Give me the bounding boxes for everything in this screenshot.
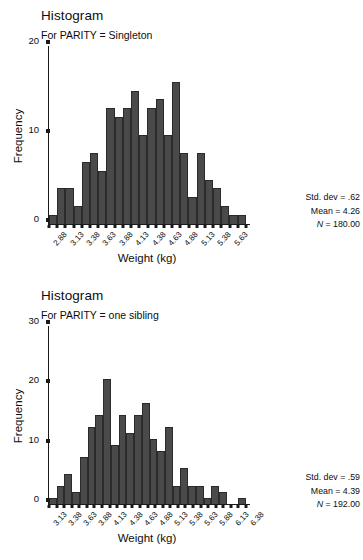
bar <box>238 498 246 504</box>
bar <box>90 153 98 224</box>
bar <box>134 415 142 504</box>
x-tick-label: 3.63 <box>82 510 99 528</box>
x-tick <box>245 225 248 228</box>
panel-1-plot-area: 2.883.133.383.633.884.134.384.634.885.13… <box>48 46 246 225</box>
bar <box>74 206 82 224</box>
bar <box>150 439 158 504</box>
x-tick-label: 3.38 <box>67 510 84 528</box>
panel-2-mean: Mean = 4.39 <box>305 485 360 499</box>
x-tick-label: 3.38 <box>85 230 102 248</box>
y-tick-label-10: 10 <box>28 124 39 135</box>
bar <box>126 433 134 504</box>
y-tick-20: 20 <box>46 379 50 383</box>
x-tick-label: 6.13 <box>233 510 250 528</box>
x-tick <box>85 505 88 508</box>
panel-2-y-axis-label-text: Frequency <box>12 388 24 442</box>
x-tick <box>179 225 182 228</box>
x-tick <box>146 505 149 508</box>
bar <box>57 188 65 224</box>
x-tick <box>222 505 225 508</box>
x-tick-label: 3.88 <box>117 230 134 248</box>
bar <box>205 180 213 225</box>
x-tick <box>169 505 172 508</box>
x-tick <box>70 505 73 508</box>
x-tick-label: 5.88 <box>218 510 235 528</box>
histogram-figure: Histogram For PARITY = Singleton Frequen… <box>0 0 363 560</box>
x-tick <box>228 225 231 228</box>
bar <box>188 197 196 224</box>
x-tick-label: 2.88 <box>52 230 69 248</box>
panel-1-stats-block: Std. dev = .62 Mean = 4.26 N = 180.00 <box>305 191 360 232</box>
panel-2-title: Histogram <box>41 288 103 303</box>
bar <box>173 486 181 504</box>
x-tick-label: 4.88 <box>183 230 200 248</box>
histogram-panel-one-sibling: Histogram For PARITY = one sibling Frequ… <box>0 280 363 560</box>
bar <box>213 188 221 224</box>
bar <box>221 206 229 224</box>
x-tick-label: 4.38 <box>150 230 167 248</box>
x-tick-label: 4.13 <box>112 510 129 528</box>
x-tick-label: 4.88 <box>157 510 174 528</box>
x-tick <box>236 225 239 228</box>
x-tick <box>93 505 96 508</box>
x-tick-label: 3.88 <box>97 510 114 528</box>
bar <box>119 415 127 504</box>
bar <box>180 468 188 504</box>
panel-2-x-axis-title: Weight (kg) <box>48 532 246 544</box>
panel-2-y-axis-label: Frequency <box>11 326 25 505</box>
panel-1-bar-series <box>49 46 246 224</box>
bar <box>80 457 88 504</box>
x-tick <box>80 225 83 228</box>
x-tick <box>154 225 157 228</box>
x-tick-label: 3.13 <box>51 510 68 528</box>
panel-1-n: N = 180.00 <box>305 218 360 232</box>
x-tick-label: 6.38 <box>248 510 265 528</box>
x-tick-label: 5.38 <box>216 230 233 248</box>
x-tick <box>72 225 75 228</box>
x-tick <box>89 225 92 228</box>
x-tick <box>220 225 223 228</box>
panel-2-subtitle: For PARITY = one sibling <box>41 309 159 321</box>
x-tick <box>78 505 81 508</box>
bar <box>64 474 72 504</box>
bar <box>219 492 227 504</box>
x-tick <box>207 505 210 508</box>
x-tick <box>108 505 111 508</box>
bar <box>131 91 139 225</box>
bar <box>123 108 131 224</box>
x-tick <box>176 505 179 508</box>
y-tick-30: 30 <box>46 320 50 324</box>
x-tick <box>214 505 217 508</box>
bar <box>65 188 73 224</box>
bar <box>95 415 103 504</box>
y-tick-label-10: 10 <box>28 433 39 444</box>
panel-2-n-value: = 192.00 <box>323 499 360 509</box>
bar <box>180 153 188 224</box>
y-tick-label-30: 30 <box>28 315 39 326</box>
panel-2-n: N = 192.00 <box>305 498 360 512</box>
x-tick <box>245 505 248 508</box>
x-tick <box>131 505 134 508</box>
x-tick-label: 4.13 <box>134 230 151 248</box>
bar <box>165 427 173 504</box>
x-tick <box>161 505 164 508</box>
panel-1-x-axis-title: Weight (kg) <box>48 252 246 264</box>
bar <box>72 492 80 504</box>
bar <box>196 486 204 504</box>
panel-1-y-axis-label-text: Frequency <box>12 108 24 162</box>
panel-1-subtitle: For PARITY = Singleton <box>41 29 152 41</box>
panel-1-x-tick-marks <box>49 225 246 229</box>
bar <box>49 498 57 504</box>
y-tick-label-20: 20 <box>28 35 39 46</box>
bar <box>82 162 90 224</box>
x-tick <box>121 225 124 228</box>
x-tick <box>56 225 59 228</box>
panel-1-std-dev: Std. dev = .62 <box>305 191 360 205</box>
x-tick <box>138 225 141 228</box>
x-tick <box>146 225 149 228</box>
panel-2-plot-area: 3.133.383.633.884.134.384.634.885.135.38… <box>48 326 246 505</box>
x-tick <box>162 225 165 228</box>
panel-1-y-axis-label: Frequency <box>11 46 25 225</box>
bar <box>106 108 114 224</box>
x-tick-label: 4.38 <box>127 510 144 528</box>
